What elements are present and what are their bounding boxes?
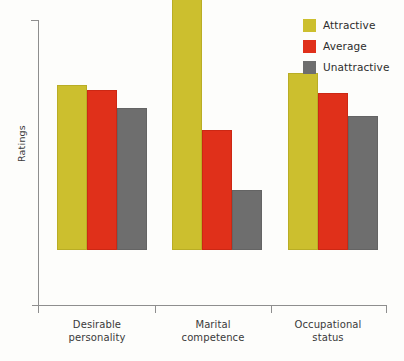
x-axis-tick [155, 305, 156, 313]
x-axis-tick [38, 305, 39, 313]
legend-item-attractive[interactable]: Attractive [303, 15, 389, 35]
legend-item-label: Unattractive [323, 61, 389, 73]
bar-unattractive[interactable] [117, 108, 147, 251]
x-axis-category-label: Desirable personality [37, 318, 157, 344]
category-label-line1: Desirable [37, 318, 157, 331]
category-label-line2: status [268, 331, 388, 344]
bar-attractive[interactable] [57, 85, 87, 250]
chart-legend: Attractive Average Unattractive [303, 15, 389, 78]
legend-swatch-icon [303, 40, 316, 53]
legend-swatch-icon [303, 61, 316, 74]
bar-average[interactable] [318, 93, 348, 250]
legend-swatch-icon [303, 19, 316, 32]
legend-item-label: Attractive [323, 19, 375, 31]
category-label-line1: Marital [153, 318, 273, 331]
legend-item-label: Average [323, 40, 367, 52]
category-label-line2: personality [37, 331, 157, 344]
bar-average[interactable] [87, 90, 117, 250]
bar-attractive[interactable] [172, 0, 202, 250]
x-axis-tick [386, 305, 387, 313]
x-axis-category-label: Occupational status [268, 318, 388, 344]
legend-item-average[interactable]: Average [303, 36, 389, 56]
category-label-line1: Occupational [268, 318, 388, 331]
bar-unattractive[interactable] [232, 190, 262, 250]
bar-unattractive[interactable] [348, 116, 378, 250]
bar-chart: Ratings Attractive A [0, 0, 404, 361]
x-axis-tick [271, 305, 272, 313]
x-axis-category-label: Marital competence [153, 318, 273, 344]
legend-item-unattractive[interactable]: Unattractive [303, 57, 389, 77]
bar-attractive[interactable] [288, 73, 318, 250]
bar-average[interactable] [202, 130, 232, 250]
category-label-line2: competence [153, 331, 273, 344]
